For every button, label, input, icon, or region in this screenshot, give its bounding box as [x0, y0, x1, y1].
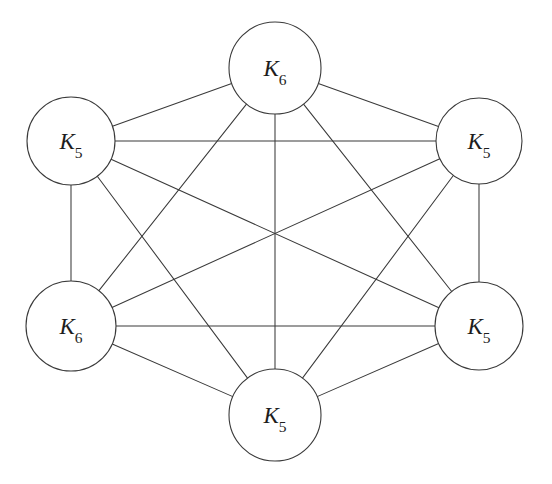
graph-canvas: K6K5K5K6K5K5	[0, 0, 552, 484]
graph-node-upper-left: K5	[27, 97, 115, 185]
graph-node-upper-right: K5	[436, 98, 522, 184]
graph-edge-top-to-lower-left	[99, 104, 247, 291]
node-label-subscript: 6	[279, 71, 287, 88]
graph-node-bottom: K5	[229, 369, 321, 461]
graph-edge-top-to-upper-right	[318, 84, 438, 127]
graph-node-top: K6	[229, 22, 321, 114]
graph-figure: K6K5K5K6K5K5	[0, 0, 552, 484]
graph-edge-upper-right-to-bottom	[302, 175, 453, 378]
node-label-subscript: 5	[279, 418, 287, 435]
node-label-subscript: 6	[75, 329, 83, 346]
graph-edge-upper-right-to-lower-left	[112, 159, 440, 308]
node-label-base: K	[58, 129, 76, 154]
node-label-base: K	[262, 403, 280, 428]
graph-edge-lower-left-to-bottom	[112, 344, 233, 397]
node-label-base: K	[466, 129, 484, 154]
node-label-subscript: 5	[483, 329, 491, 346]
graph-node-lower-left: K6	[26, 281, 116, 371]
graph-node-lower-right: K5	[435, 282, 523, 370]
graph-edge-top-to-lower-right	[304, 104, 452, 291]
graph-edge-top-to-upper-left	[112, 84, 231, 127]
node-label-base: K	[58, 314, 76, 339]
node-label-base: K	[466, 314, 484, 339]
edge-layer	[71, 84, 479, 397]
node-label-subscript: 5	[483, 144, 491, 161]
graph-edge-lower-right-to-bottom	[317, 344, 439, 397]
node-label-base: K	[262, 56, 280, 81]
node-label-subscript: 5	[75, 144, 83, 161]
